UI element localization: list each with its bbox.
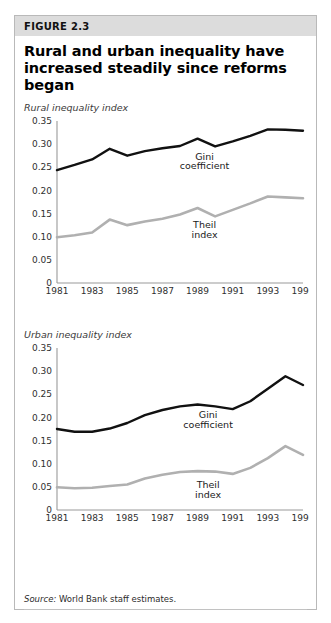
y-tick-label: 0.10 [32,459,52,469]
series-line [57,196,303,237]
y-tick-label: 0.20 [32,185,52,195]
series-annotation-label: index [192,228,218,239]
figure-header-band: FIGURE 2.3 [15,16,316,36]
x-tick-label: 1985 [116,286,139,296]
y-tick-label: 0.25 [32,389,52,399]
source-note: Source: World Bank staff estimates. [24,594,307,604]
source-rest: World Bank staff estimates. [56,594,176,604]
x-tick-label: 1993 [256,286,279,296]
x-tick-label: 1985 [116,513,139,523]
x-tick-label: 1983 [81,286,104,296]
y-tick-label: 0.15 [32,436,52,446]
x-tick-label: 1987 [151,286,174,296]
y-tick-label: 0.15 [32,209,52,219]
source-row: Source: World Bank staff estimates. [24,594,307,610]
rural-chart-plot: 00.050.100.150.200.250.300.3519811983198… [24,115,309,315]
x-tick-label: 1981 [46,286,69,296]
y-tick-label: 0.30 [32,366,52,376]
x-tick-label: 1993 [256,513,279,523]
series-annotation-label: coefficient [180,160,230,171]
x-tick-label: 1983 [81,513,104,523]
series-line [57,376,303,432]
source-divider [24,609,307,610]
urban-chart-axis-title: Urban inequality index [24,329,316,342]
rural-chart-svg: 00.050.100.150.200.250.300.3519811983198… [24,115,309,313]
series-line [57,446,303,488]
x-tick-label: 1991 [221,286,244,296]
rural-chart-axis-title: Rural inequality index [24,102,316,115]
y-tick-label: 0.05 [32,255,52,265]
figure-number-label: FIGURE 2.3 [24,21,90,32]
series-annotation-label: index [195,488,221,499]
y-tick-label: 0.35 [32,116,52,126]
x-tick-label: 1981 [46,513,69,523]
figure-title: Rural and urban inequality have increase… [15,36,316,94]
source-lead: Source: [24,594,56,604]
x-tick-label: 1995 [292,513,309,523]
series-annotation-label: coefficient [183,418,233,429]
x-tick-label: 1987 [151,513,174,523]
urban-chart-panel: Urban inequality index 00.050.100.150.20… [24,329,316,542]
x-tick-label: 1989 [186,286,209,296]
y-tick-label: 0.35 [32,343,52,353]
y-tick-label: 0.30 [32,139,52,149]
y-tick-label: 0.25 [32,162,52,172]
figure-container: FIGURE 2.3 Rural and urban inequality ha… [14,15,317,610]
x-tick-label: 1991 [221,513,244,523]
x-tick-label: 1995 [292,286,309,296]
y-tick-label: 0.10 [32,232,52,242]
urban-chart-svg: 00.050.100.150.200.250.300.3519811983198… [24,342,309,540]
rural-chart-panel: Rural inequality index 00.050.100.150.20… [24,102,316,315]
urban-chart-plot: 00.050.100.150.200.250.300.3519811983198… [24,342,309,542]
y-tick-label: 0.20 [32,412,52,422]
x-tick-label: 1989 [186,513,209,523]
y-tick-label: 0.05 [32,482,52,492]
